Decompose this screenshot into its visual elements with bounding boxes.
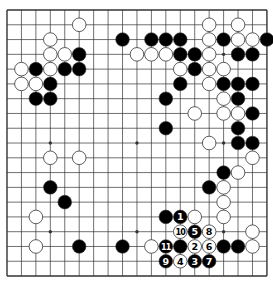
white-stone (29, 210, 43, 224)
numbered-black-stone: 11 (159, 240, 173, 254)
black-stone (217, 240, 231, 254)
go-board-diagram: 1105811269437 (0, 0, 273, 292)
white-stone (173, 62, 187, 76)
move-number-label: 10 (176, 228, 187, 237)
star-point (135, 141, 138, 144)
black-stone (29, 92, 43, 106)
black-stone (231, 48, 245, 62)
white-stone (44, 48, 58, 62)
white-stone (217, 62, 231, 76)
black-stone (159, 121, 173, 135)
black-stone (173, 77, 187, 91)
black-stone (116, 33, 130, 47)
black-stone (173, 240, 187, 254)
move-number-label: 6 (206, 241, 213, 252)
numbered-black-stone: 9 (159, 254, 173, 268)
white-stone (246, 151, 260, 165)
star-point (49, 230, 52, 233)
move-number-label: 11 (161, 243, 172, 252)
move-number-label: 1 (177, 211, 184, 222)
star-point (222, 53, 225, 56)
white-stone (231, 33, 245, 47)
white-stone (217, 107, 231, 121)
black-stone (44, 181, 58, 195)
white-stone (202, 62, 216, 76)
white-stone (145, 240, 159, 254)
white-stone (217, 92, 231, 106)
black-stone (72, 62, 86, 76)
black-stone (159, 210, 173, 224)
white-stone (202, 77, 216, 91)
white-stone (44, 62, 58, 76)
white-stone (202, 18, 216, 32)
move-number-label: 7 (206, 256, 213, 267)
black-stone (231, 121, 245, 135)
white-stone (130, 48, 144, 62)
black-stone (173, 48, 187, 62)
move-number-label: 2 (191, 241, 198, 252)
black-stone (217, 33, 231, 47)
numbered-white-stone: 2 (188, 240, 202, 254)
white-stone (202, 136, 216, 150)
black-stone (231, 92, 245, 106)
numbered-black-stone: 7 (202, 254, 216, 268)
move-number-label: 3 (191, 256, 198, 267)
black-stone (231, 240, 245, 254)
white-stone (15, 62, 29, 76)
numbered-white-stone: 8 (202, 225, 216, 239)
star-point (49, 141, 52, 144)
white-stone (29, 240, 43, 254)
numbered-black-stone: 1 (173, 210, 187, 224)
black-stone (246, 77, 260, 91)
black-stone (44, 92, 58, 106)
white-stone (44, 151, 58, 165)
numbered-black-stone: 5 (188, 225, 202, 239)
black-stone (246, 107, 260, 121)
black-stone (58, 195, 72, 209)
white-stone (246, 225, 260, 239)
numbered-white-stone: 4 (173, 254, 187, 268)
white-stone (29, 77, 43, 91)
white-stone (188, 107, 202, 121)
star-point (135, 230, 138, 233)
go-board: 1105811269437 (0, 0, 273, 292)
black-stone (44, 77, 58, 91)
black-stone (246, 48, 260, 62)
white-stone (202, 33, 216, 47)
white-stone (202, 48, 216, 62)
black-stone (58, 62, 72, 76)
white-stone (58, 48, 72, 62)
white-stone (44, 33, 58, 47)
white-stone (217, 210, 231, 224)
black-stone (231, 77, 245, 91)
black-stone (29, 62, 43, 76)
black-stone (72, 48, 86, 62)
black-stone (260, 33, 273, 47)
white-stone (246, 240, 260, 254)
black-stone (159, 92, 173, 106)
numbered-white-stone: 10 (173, 225, 187, 239)
black-stone (188, 62, 202, 76)
black-stone (217, 77, 231, 91)
move-number-label: 4 (177, 256, 184, 267)
black-stone (246, 136, 260, 150)
white-stone (188, 210, 202, 224)
move-number-label: 9 (163, 256, 170, 267)
star-point (222, 230, 225, 233)
white-stone (246, 33, 260, 47)
numbered-white-stone: 6 (202, 240, 216, 254)
white-stone (217, 181, 231, 195)
black-stone (116, 240, 130, 254)
move-number-label: 5 (191, 226, 198, 237)
white-stone (145, 48, 159, 62)
white-stone (231, 166, 245, 180)
black-stone (72, 240, 86, 254)
black-stone (159, 33, 173, 47)
black-stone (145, 33, 159, 47)
white-stone (217, 195, 231, 209)
star-point (222, 141, 225, 144)
move-number-label: 8 (206, 226, 213, 237)
black-stone (202, 181, 216, 195)
black-stone (173, 33, 187, 47)
black-stone (231, 136, 245, 150)
